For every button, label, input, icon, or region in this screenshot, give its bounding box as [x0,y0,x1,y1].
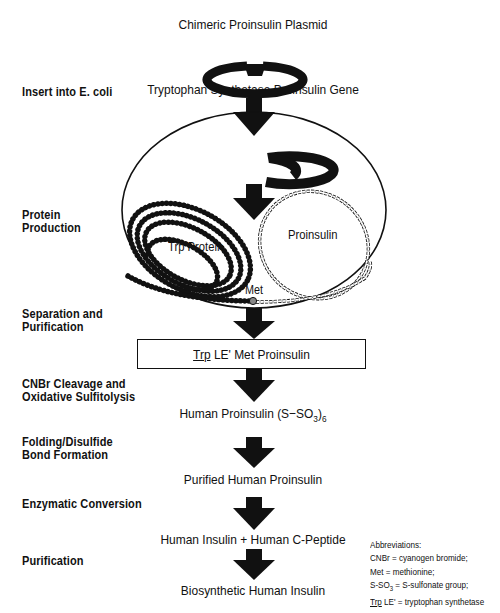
human-proinsulin-sso3: Human Proinsulin (S−SO3)6 [20,406,486,424]
arrow-down-icon [233,308,275,339]
box-rest: LE' Met Proinsulin [211,347,310,362]
step-protein-production: ProteinProduction [22,209,81,235]
purified-human-proinsulin: Purified Human Proinsulin [20,472,486,487]
step-separation-purification: Separation andPurification [22,308,103,334]
proinsulin-label: Proinsulin [288,228,337,242]
arrow-down-icon [233,549,275,580]
arrow-down-icon [233,98,275,136]
arrow-down-icon [233,437,275,468]
arrow-down-icon [233,497,275,530]
trp-underlined: Trp [193,347,211,362]
abbr-cnbr: CNBr = cyanogen bromide; [370,551,484,564]
step-insert-into-e-coli: Insert into E. coli [22,86,112,99]
abbr-heading: Abbreviations: [370,538,484,551]
step-cnbr-cleavage: CNBr Cleavage andOxidative Sulfitolysis [22,378,135,404]
met-residue [249,297,256,304]
plasmid-inner-icon [266,156,334,184]
step-folding-disulfide: Folding/DisulfideBond Formation [22,436,113,462]
trp-protein-label: Trp Protein [168,240,223,254]
met-label: Met [245,283,263,297]
abbr-trp: Trp LE' = tryptophan synthetase [370,595,484,608]
abbr-sso3: S-SO3 = S-sulfonate group; [370,578,484,595]
plasmid-title: Chimeric Proinsulin Plasmid [20,17,486,32]
abbr-met: Met = methionine; [370,565,484,578]
step-purification: Purification [22,555,84,568]
step-enzymatic-conversion: Enzymatic Conversion [22,498,142,511]
arrow-down-icon [233,369,275,402]
abbreviations-legend: Abbreviations: CNBr = cyanogen bromide; … [370,538,484,608]
trp-le-met-proinsulin-box: Trp LE' Met Proinsulin [137,339,366,369]
